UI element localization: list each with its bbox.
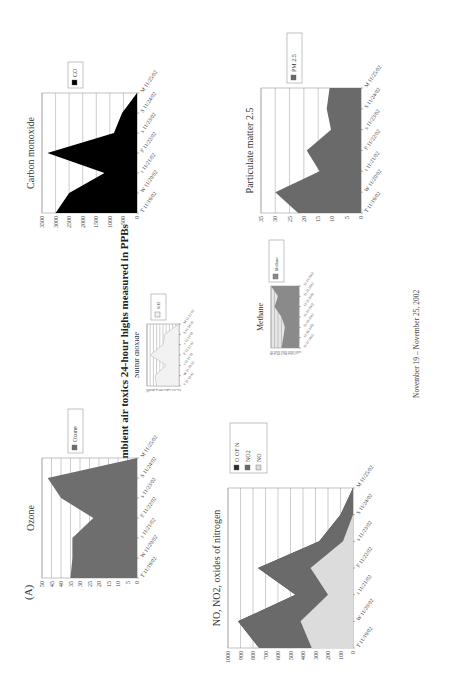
x-tick-label: T 11/19/02: [363, 190, 382, 213]
y-tick-label: 1500: [93, 216, 99, 228]
x-tick-label: S 11/24/02: [139, 455, 158, 478]
chart-ozone: Ozone05101520253035404550T 11/19/02W 11/…: [20, 393, 200, 608]
y-tick-label: 10: [115, 581, 121, 587]
chart-legend: O OF NNO2NO: [230, 423, 267, 473]
y-tick-label: 5: [125, 581, 131, 584]
chart-title: Ozone: [25, 504, 36, 531]
chart-legend: SO2: [151, 294, 166, 320]
y-tick-label: 3000: [53, 216, 59, 228]
y-tick-label: 2500: [66, 216, 72, 228]
legend-entry: PM 2.5: [291, 54, 297, 72]
chart-legend: Ozone: [68, 409, 83, 453]
legend-entry: NO2: [245, 450, 251, 462]
x-tick-label: W 11/20/02: [355, 597, 375, 622]
y-tick-label: 45: [49, 581, 55, 587]
y-tick-label: 30: [272, 216, 278, 222]
y-tick-label: 15: [106, 581, 112, 587]
legend-entry: CO: [72, 68, 78, 77]
x-tick-label: s 11/23/02: [139, 476, 157, 498]
chart-legend: Methane: [269, 240, 284, 282]
y-tick-label: 80: [269, 351, 274, 355]
y-tick-label: 700: [263, 651, 269, 660]
y-tick-label: 15: [315, 216, 321, 222]
y-tick-label: 10: [145, 389, 150, 393]
y-tick-label: 0: [358, 216, 364, 219]
x-tick-label: M 11/25/02: [355, 464, 375, 489]
x-tick-label: T 11/19/02: [355, 625, 374, 648]
y-tick-label: 1000: [225, 651, 231, 663]
chart-title: Methane: [256, 303, 265, 331]
y-tick-label: 200: [325, 651, 331, 660]
x-tick-label: S 11/24/02: [139, 90, 158, 113]
x-tick-label: s 11/23/02: [355, 520, 373, 542]
chart-title: NO, NO2, oxides of nitrogen: [211, 510, 222, 627]
x-tick-label: s 11/23/02: [139, 111, 157, 133]
y-tick-label: 20: [96, 581, 102, 587]
y-tick-label: 1000: [107, 216, 113, 228]
x-tick-label: F 11/22/02: [363, 128, 382, 151]
x-tick-label: M 11/25/02: [139, 434, 159, 459]
chart-pm25: Particulate matter 2.505101520253035T 11…: [235, 28, 425, 243]
y-tick-label: 900: [238, 651, 244, 660]
chart-title: Carbon monoxide: [25, 116, 36, 188]
y-tick-label: 0: [134, 216, 140, 219]
x-tick-label: M 11/25/02: [139, 69, 159, 94]
legend-entry: Ozone: [72, 426, 78, 442]
x-tick-label: S 11/24/02: [363, 86, 382, 109]
y-tick-label: 50: [39, 581, 45, 587]
y-tick-label: 800: [250, 651, 256, 660]
legend-entry: NO: [256, 453, 262, 462]
y-tick-label: 300: [313, 651, 319, 660]
y-tick-label: 100: [338, 651, 344, 660]
chart-co: Carbon monoxide0500100015002000250030003…: [20, 28, 200, 243]
chart-legend: CO: [68, 62, 83, 88]
y-tick-label: 500: [120, 216, 126, 225]
x-tick-label: t 11/21/02: [355, 573, 373, 595]
y-tick-label: 600: [275, 651, 281, 660]
y-tick-label: 5: [344, 216, 350, 219]
y-tick-label: 0: [350, 651, 356, 654]
y-tick-label: 30: [77, 581, 83, 587]
y-tick-label: 35: [258, 216, 264, 222]
x-tick-label: S 11/24/02: [355, 492, 374, 515]
x-tick-label: s 11/23/02: [363, 108, 381, 130]
x-tick-label: T 11/19/02: [139, 190, 158, 213]
y-tick-label: 35: [68, 581, 74, 587]
x-tick-label: F 11/22/02: [139, 495, 158, 518]
chart-nox: NO, NO2, oxides of nitrogen0100200300400…: [200, 358, 430, 688]
x-tick-label: T 11/19/02: [139, 555, 158, 578]
y-tick-label: 2000: [80, 216, 86, 228]
y-tick-label: 25: [287, 216, 293, 222]
legend-entry: Methane: [274, 257, 279, 271]
y-tick-label: 0: [134, 581, 140, 584]
chart-title: Sulfur dioxide: [135, 332, 141, 378]
chart-title: Particulate matter 2.5: [244, 108, 255, 194]
rotated-figure-page: Metro Dallas ambient air toxics 24-hour …: [0, 0, 450, 698]
x-tick-label: M 11/25/02: [363, 64, 383, 89]
x-tick-label: F 11/22/02: [355, 545, 374, 568]
y-tick-label: 3500: [39, 216, 45, 228]
legend-entry: SO2: [156, 302, 161, 309]
y-tick-label: 20: [301, 216, 307, 222]
y-tick-label: 10: [329, 216, 335, 222]
y-tick-label: 40: [58, 581, 64, 587]
x-tick-label: F 11/22/02: [139, 130, 158, 153]
chart-methane: Methane0102030405060708011/17/200211/18/…: [255, 223, 365, 368]
y-tick-label: 25: [87, 581, 93, 587]
y-tick-label: 400: [300, 651, 306, 660]
chart-legend: PM 2.5: [287, 33, 302, 83]
legend-entry: O OF N: [234, 442, 240, 462]
y-tick-label: 500: [288, 651, 294, 660]
